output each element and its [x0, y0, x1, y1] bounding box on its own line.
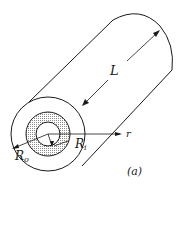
inner-radius-label: Ri	[75, 138, 87, 152]
radial-axis-label: r	[126, 129, 131, 139]
length-label: L	[110, 64, 119, 77]
inner-radius-symbol: R	[75, 137, 84, 151]
outer-radius-symbol: R	[15, 149, 24, 163]
outer-radius-subscript: o	[24, 155, 29, 164]
outer-radius-label: Ro	[15, 150, 29, 164]
panel-label: (a)	[127, 166, 142, 177]
inner-radius-subscript: i	[84, 143, 87, 152]
